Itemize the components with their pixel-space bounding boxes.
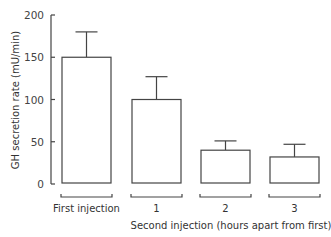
y-tick-label: 150 xyxy=(24,51,44,63)
category-bracket xyxy=(61,194,112,197)
category-brackets xyxy=(61,194,320,197)
category-label: 2 xyxy=(222,203,228,214)
category-label: First injection xyxy=(53,203,120,214)
category-bracket xyxy=(269,194,320,197)
category-labels: First injection123 xyxy=(53,203,298,214)
y-tick-label: 100 xyxy=(24,94,44,106)
category-bracket xyxy=(200,194,251,197)
category-label: 3 xyxy=(291,203,297,214)
category-label: 1 xyxy=(153,203,159,214)
bar-group xyxy=(132,77,181,183)
category-bracket xyxy=(131,194,182,197)
y-tick-label: 0 xyxy=(37,178,44,190)
bar xyxy=(270,157,319,183)
bar xyxy=(132,100,181,184)
bar-group xyxy=(270,144,319,183)
y-tick-label: 50 xyxy=(31,136,44,148)
x-axis-title: Second injection (hours apart from first… xyxy=(131,220,331,231)
bar-group xyxy=(201,141,250,183)
y-axis-title: GH secretion rate (mU/min) xyxy=(10,31,21,169)
bar xyxy=(201,150,250,183)
bar-chart: 050100150200 First injection123 GH secre… xyxy=(0,0,331,237)
y-axis: 050100150200 xyxy=(24,9,55,190)
bar xyxy=(62,57,111,183)
bar-group xyxy=(62,32,111,183)
y-tick-label: 200 xyxy=(24,9,44,21)
bars xyxy=(62,32,319,183)
